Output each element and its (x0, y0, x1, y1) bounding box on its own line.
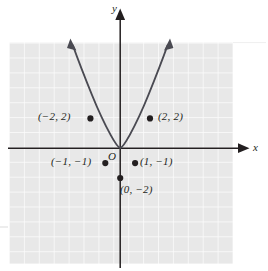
point-label-neg2-2: (−2, 2) (38, 110, 71, 122)
graph-figure: (−2, 2) (−1, −1) (0, −2) (1, −1) (2, 2) … (0, 0, 268, 271)
point-label-neg1-neg1: (−1, −1) (51, 155, 91, 167)
coordinate-plane-svg (0, 0, 268, 271)
x-axis-label: x (253, 141, 258, 153)
point-2-2 (147, 115, 153, 121)
point-label-1-neg1: (1, −1) (140, 155, 173, 167)
grid-region (9, 43, 233, 264)
point-label-2-2: (2, 2) (158, 110, 183, 122)
y-axis-label: y (112, 2, 117, 14)
point-neg2-2 (87, 115, 93, 121)
point-0-neg2 (117, 175, 123, 181)
origin-label: O (108, 150, 116, 162)
point-1-neg1 (132, 160, 138, 166)
point-label-0-neg2: (0, −2) (120, 183, 153, 195)
